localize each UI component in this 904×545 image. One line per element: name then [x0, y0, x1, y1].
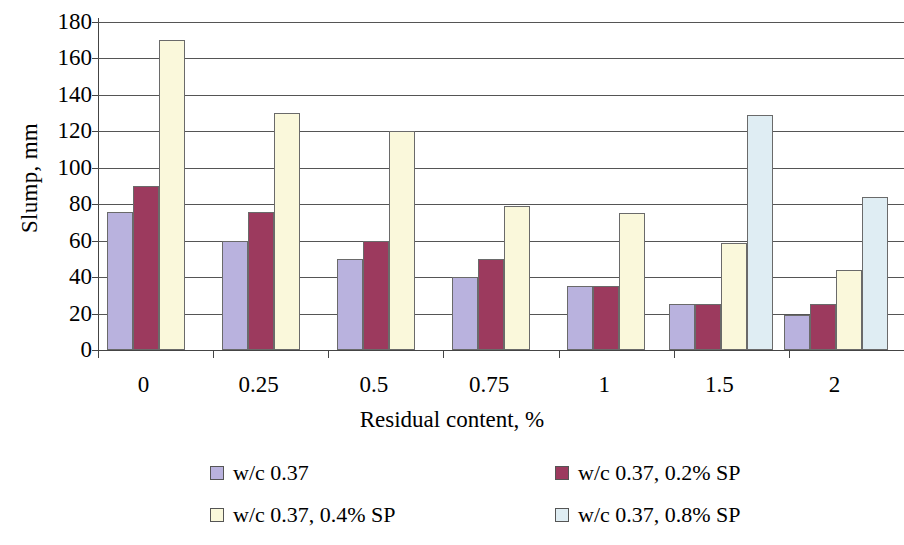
legend-swatch-icon [555, 508, 569, 522]
bar [133, 186, 159, 350]
bar [695, 304, 721, 350]
x-tick-mark [213, 350, 214, 358]
bar [274, 113, 300, 350]
x-tick-mark [328, 350, 329, 358]
y-tick-label: 20 [14, 302, 92, 325]
legend-swatch-icon [210, 508, 224, 522]
x-tick-mark [789, 350, 790, 358]
x-tick-label: 1.5 [705, 372, 734, 398]
bar [810, 304, 836, 350]
bar [669, 304, 695, 350]
bar [248, 212, 274, 350]
x-tick-label: 0.25 [239, 372, 279, 398]
legend-item[interactable]: w/c 0.37 [210, 462, 309, 484]
legend-label: w/c 0.37, 0.2% SP [578, 462, 741, 484]
bar [567, 286, 593, 350]
y-tick-label: 0 [14, 338, 92, 361]
bar [747, 115, 773, 350]
y-tick-label: 140 [14, 83, 92, 106]
bar [836, 270, 862, 350]
gridline [98, 58, 904, 59]
bar [389, 131, 415, 350]
legend-swatch-icon [210, 466, 224, 480]
x-tick-mark [674, 350, 675, 358]
legend-label: w/c 0.37 [233, 462, 309, 484]
x-axis-title: Residual content, % [0, 407, 904, 433]
y-tick-label: 160 [14, 46, 92, 69]
x-tick-label: 0.5 [359, 372, 388, 398]
y-tick-label: 120 [14, 119, 92, 142]
legend-item[interactable]: w/c 0.37, 0.8% SP [555, 504, 741, 526]
gridline [98, 168, 904, 169]
gridline [98, 95, 904, 96]
y-tick-label: 180 [14, 10, 92, 33]
plot-area [98, 22, 904, 350]
bar [452, 277, 478, 350]
x-tick-label: 2 [829, 372, 841, 398]
legend-swatch-icon [555, 466, 569, 480]
x-tick-mark [559, 350, 560, 358]
bar [862, 197, 888, 350]
gridline [98, 131, 904, 132]
gridline [98, 22, 904, 23]
bar [222, 241, 248, 350]
x-tick-label: 0 [138, 372, 150, 398]
bar [478, 259, 504, 350]
x-tick-label: 1 [598, 372, 610, 398]
legend-item[interactable]: w/c 0.37, 0.4% SP [210, 504, 396, 526]
bar [363, 241, 389, 350]
x-tick-mark [443, 350, 444, 358]
slump-bar-chart: Slump, mm 020406080100120140160180 00.25… [0, 0, 904, 545]
bar [504, 206, 530, 350]
legend-label: w/c 0.37, 0.8% SP [578, 504, 741, 526]
legend-label: w/c 0.37, 0.4% SP [233, 504, 396, 526]
bar [721, 243, 747, 351]
y-tick-label: 80 [14, 192, 92, 215]
bar [337, 259, 363, 350]
x-tick-mark [98, 350, 99, 358]
chart-legend: w/c 0.37w/c 0.37, 0.2% SPw/c 0.37, 0.4% … [0, 462, 904, 542]
bar [159, 40, 185, 350]
bar [107, 212, 133, 350]
bar [784, 315, 810, 350]
legend-item[interactable]: w/c 0.37, 0.2% SP [555, 462, 741, 484]
y-tick-label: 40 [14, 265, 92, 288]
bar [593, 286, 619, 350]
gridline [98, 241, 904, 242]
bar [619, 213, 645, 350]
y-tick-label: 100 [14, 156, 92, 179]
x-axis-line [96, 350, 904, 351]
y-tick-label: 60 [14, 229, 92, 252]
x-tick-label: 0.75 [469, 372, 509, 398]
gridline [98, 204, 904, 205]
